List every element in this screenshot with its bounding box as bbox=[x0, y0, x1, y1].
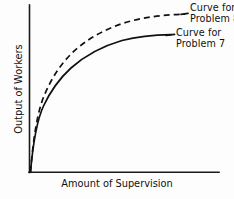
y-axis-title-container: Output of Workers bbox=[10, 24, 26, 154]
annotation-problem-7-line2: Problem 7 bbox=[176, 38, 225, 49]
supervision-output-chart: Curve for Problem 8 Curve for Problem 7 … bbox=[0, 0, 234, 199]
annotation-problem-7-line1: Curve for bbox=[176, 27, 225, 38]
curve-problem-8 bbox=[31, 14, 186, 172]
y-axis-title: Output of Workers bbox=[13, 44, 24, 133]
annotation-problem-7: Curve for Problem 7 bbox=[176, 27, 225, 49]
annotation-problem-8: Curve for Problem 8 bbox=[190, 2, 234, 24]
leader-line-problem-8 bbox=[181, 13, 188, 14]
curve-problem-7 bbox=[31, 35, 172, 172]
leader-line-problem-7 bbox=[166, 34, 175, 35]
x-axis-title: Amount of Supervision bbox=[0, 178, 234, 189]
annotation-problem-8-line1: Curve for bbox=[190, 2, 234, 13]
annotation-problem-8-line2: Problem 8 bbox=[190, 13, 234, 24]
